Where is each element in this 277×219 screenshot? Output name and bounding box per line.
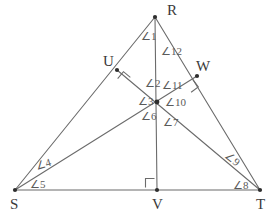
right-angle-at-V — [146, 179, 155, 188]
vertex-label-r: R — [167, 2, 177, 18]
triangle-figure-svg: ∠1∠2∠3∠4∠5∠6∠7∠8∠9∠10∠11∠12 RSTUVW — [0, 0, 277, 219]
angle-labels-group: ∠1∠2∠3∠4∠5∠6∠7∠8∠9∠10∠11∠12 — [30, 30, 249, 191]
angle-label-4: ∠4 — [34, 156, 53, 172]
angle-label-6: ∠6 — [141, 110, 157, 122]
angle-label-3: ∠3 — [138, 95, 154, 107]
angle-label-8: ∠8 — [233, 179, 249, 191]
vertex-label-w: W — [196, 58, 211, 74]
right-angle-marks-group — [118, 72, 199, 188]
vertex-dot-t — [258, 188, 262, 192]
cevian-SW — [15, 76, 197, 190]
vertex-dot-r — [153, 15, 157, 19]
angle-label-5: ∠5 — [30, 178, 46, 190]
vertex-labels-group: RSTUVW — [10, 2, 265, 212]
vertex-dot-w — [195, 74, 199, 78]
angle-label-11: ∠11 — [162, 79, 183, 91]
cevian-TU — [117, 70, 260, 190]
vertex-label-v: V — [152, 196, 163, 212]
vertex-label-t: T — [256, 196, 265, 212]
angle-label-2: ∠2 — [145, 77, 161, 89]
vertex-label-s: S — [10, 196, 18, 212]
angle-label-7: ∠7 — [163, 116, 179, 128]
vertex-dot-u — [115, 68, 119, 72]
angle-label-12: ∠12 — [161, 45, 182, 57]
angle-label-9: ∠9 — [223, 149, 243, 168]
vertex-dot-v — [155, 188, 159, 192]
vertex-label-u: U — [103, 53, 114, 69]
right-angle-at-U — [118, 72, 131, 85]
geometry-diagram: ∠1∠2∠3∠4∠5∠6∠7∠8∠9∠10∠11∠12 RSTUVW — [0, 0, 277, 219]
angle-label-10: ∠10 — [165, 96, 187, 108]
intersection-point-dot — [155, 100, 160, 105]
angle-label-1: ∠1 — [141, 30, 157, 42]
vertex-dot-s — [13, 188, 17, 192]
